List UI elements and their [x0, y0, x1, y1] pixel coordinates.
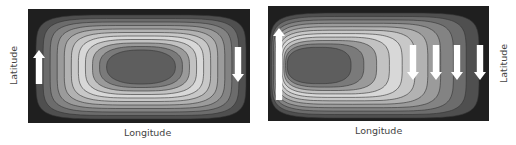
panel-1-ylabel: Latitude [8, 46, 19, 85]
panel-symmetric-gyre [28, 9, 250, 123]
contour-band [287, 47, 351, 83]
gyre-figure [0, 0, 516, 145]
panel-2-ylabel: Latitude [498, 44, 509, 83]
panel-1-xlabel: Longitude [124, 127, 171, 138]
panel-westward-intensified-gyre [268, 6, 489, 121]
contour-band [107, 50, 176, 84]
panel-2-xlabel: Longitude [355, 125, 402, 136]
